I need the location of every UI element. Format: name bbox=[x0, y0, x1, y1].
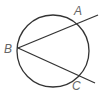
ray-ba bbox=[18, 15, 98, 48]
geometry-diagram: A B C bbox=[0, 0, 100, 94]
label-a: A bbox=[73, 4, 82, 18]
label-c: C bbox=[72, 79, 81, 93]
circle bbox=[17, 15, 89, 87]
label-b: B bbox=[4, 42, 12, 56]
